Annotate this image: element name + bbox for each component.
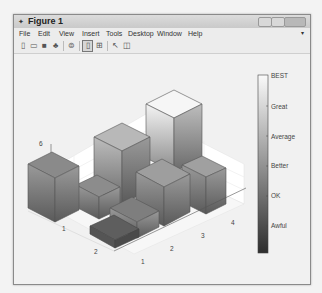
col-tick-4: 4 (231, 219, 235, 226)
colorbar-label-awful: Awful (271, 222, 287, 229)
col-tick-3: 3 (201, 232, 205, 239)
window-title: Figure 1 (28, 15, 63, 28)
menu-edit[interactable]: Edit (38, 28, 50, 39)
toolbar-separator (63, 41, 64, 51)
new-file-icon[interactable]: ▯ (18, 41, 27, 50)
pointer-arrow-icon[interactable]: ↖ (111, 41, 120, 50)
colorbar[interactable]: BEST Great Average Better OK Awful (258, 72, 295, 253)
print-icon[interactable]: ♣ (51, 41, 60, 50)
save-icon[interactable]: ■ (40, 41, 49, 50)
maximize-button[interactable] (271, 17, 285, 27)
figure-window: ✦ Figure 1 File Edit View Insert Tools D… (13, 14, 311, 285)
colorbar-label-best: BEST (271, 72, 288, 79)
z-tick-6: 6 (39, 140, 43, 147)
colorbar-label-average: Average (271, 133, 295, 141)
panel-icon[interactable]: ◫ (122, 41, 131, 50)
menu-insert[interactable]: Insert (82, 28, 100, 39)
menu-help[interactable]: Help (188, 28, 202, 39)
bar-r1-c1 (28, 152, 79, 222)
menu-view[interactable]: View (59, 28, 74, 39)
colorbar-label-ok: OK (271, 192, 281, 199)
bar3-chart: 6 4 2 0 (14, 54, 310, 284)
single-pane-icon[interactable]: ▯ (82, 40, 93, 52)
figure-canvas: 6 4 2 0 (14, 54, 310, 284)
row-tick-1: 1 (62, 225, 66, 232)
colorbar-label-better: Better (271, 162, 289, 169)
col-tick-1: 1 (141, 258, 145, 265)
toolbar-separator (107, 41, 108, 51)
matlab-figure-icon: ✦ (18, 18, 25, 25)
menu-file[interactable]: File (19, 28, 30, 39)
menu-tools[interactable]: Tools (106, 28, 122, 39)
col-tick-2: 2 (170, 245, 174, 252)
figure-toolbar: ▯ ▭ ■ ♣ ⊜ ▯ ⊞ ↖ ◫ (14, 39, 310, 54)
colorbar-label-great: Great (271, 103, 287, 110)
menu-overflow-arrow[interactable]: ▾ (301, 28, 304, 39)
toolbar-separator (79, 41, 80, 51)
menu-bar: File Edit View Insert Tools Desktop Wind… (14, 28, 310, 39)
grid-pane-icon[interactable]: ⊞ (95, 41, 104, 50)
menu-desktop[interactable]: Desktop (128, 28, 154, 39)
link-icon[interactable]: ⊜ (67, 41, 76, 50)
row-tick-2: 2 (94, 248, 98, 255)
folder-open-icon[interactable]: ▭ (29, 41, 38, 50)
close-button[interactable] (284, 17, 306, 27)
menu-window[interactable]: Window (157, 28, 182, 39)
minimize-button[interactable] (258, 17, 272, 27)
title-bar[interactable]: ✦ Figure 1 (14, 15, 310, 28)
